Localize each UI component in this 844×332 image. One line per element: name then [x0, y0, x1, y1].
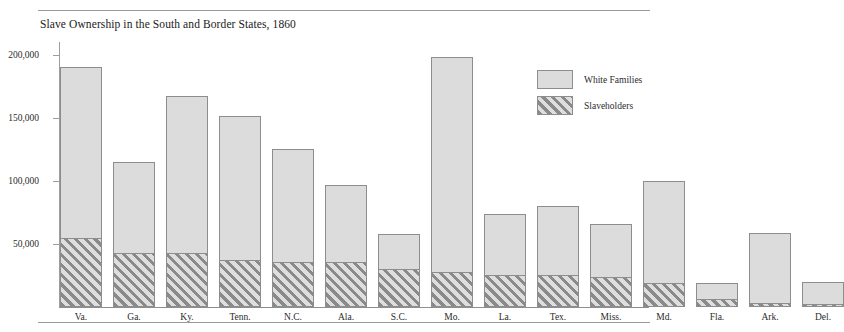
- bar-group: [643, 181, 685, 307]
- header-divider: [38, 10, 650, 11]
- chart-title: Slave Ownership in the South and Border …: [40, 18, 296, 30]
- bar-segment-slaveholders: [166, 253, 208, 307]
- x-axis-tick-label: Ala.: [325, 312, 367, 322]
- y-axis-tick-label: 200,000: [8, 50, 39, 60]
- x-axis-tick-label: Ark.: [749, 312, 791, 322]
- legend-swatch-slaveholders: [537, 96, 573, 115]
- bar-group: [537, 206, 579, 307]
- x-axis-tick-label: Ky.: [166, 312, 208, 322]
- bar-segment-slaveholders: [113, 253, 155, 307]
- bar-group: [325, 185, 367, 307]
- bar-segment-slaveholders: [537, 275, 579, 307]
- bar-group: [696, 283, 738, 307]
- bar-group: [113, 162, 155, 307]
- x-axis-tick-label: Tex.: [537, 312, 579, 322]
- y-axis-tick: [53, 244, 60, 245]
- bar-segment-slaveholders: [272, 262, 314, 307]
- x-axis-tick-label: La.: [484, 312, 526, 322]
- legend-label-white-families: White Families: [584, 75, 642, 85]
- bar-segment-slaveholders: [219, 260, 261, 307]
- x-axis-tick-label: Tenn.: [219, 312, 261, 322]
- legend-item-white-families: White Families: [537, 70, 642, 89]
- x-axis-line: [59, 307, 649, 308]
- y-axis-tick-label: 100,000: [8, 176, 39, 186]
- bar-segment-slaveholders: [643, 283, 685, 307]
- x-axis-tick-label: Fla.: [696, 312, 738, 322]
- bar-group: [378, 234, 420, 307]
- legend-swatch-white-families: [537, 70, 573, 89]
- bar-segment-slaveholders: [484, 275, 526, 307]
- bar-segment-slaveholders: [802, 304, 844, 307]
- legend-label-slaveholders: Slaveholders: [584, 101, 633, 111]
- bar-segment-slaveholders: [325, 262, 367, 307]
- bar-segment-slaveholders: [590, 277, 632, 307]
- x-axis-tick-label: Mo.: [431, 312, 473, 322]
- bar-group: [802, 282, 844, 307]
- legend-item-slaveholders: Slaveholders: [537, 96, 633, 115]
- bar-group: [219, 116, 261, 307]
- bar-group: [590, 224, 632, 307]
- bar-segment-slaveholders: [60, 238, 102, 307]
- footer-divider: [38, 322, 650, 323]
- x-axis-tick-label: Va.: [60, 312, 102, 322]
- bar-group: [484, 214, 526, 307]
- bar-group: [166, 96, 208, 307]
- bar-segment-white-families: [802, 282, 844, 307]
- x-axis-tick-label: Miss.: [590, 312, 632, 322]
- x-axis-tick-label: S.C.: [378, 312, 420, 322]
- x-axis-tick-label: Ga.: [113, 312, 155, 322]
- bar-segment-slaveholders: [749, 303, 791, 307]
- bar-segment-slaveholders: [378, 269, 420, 307]
- bar-segment-slaveholders: [696, 299, 738, 307]
- bar-segment-white-families: [431, 57, 473, 307]
- y-axis-tick: [53, 181, 60, 182]
- bar-group: [431, 57, 473, 307]
- x-axis-tick-label: Del.: [802, 312, 844, 322]
- bar-group: [60, 67, 102, 307]
- x-axis-tick-label: Md.: [643, 312, 685, 322]
- y-axis-tick: [53, 118, 60, 119]
- y-axis-tick-label: 150,000: [8, 113, 39, 123]
- bar-segment-white-families: [749, 233, 791, 307]
- bar-segment-slaveholders: [431, 272, 473, 307]
- x-axis-tick-label: N.C.: [272, 312, 314, 322]
- y-axis-tick: [53, 55, 60, 56]
- bar-group: [749, 233, 791, 307]
- bar-group: [272, 149, 314, 307]
- y-axis-tick-label: 50,000: [13, 239, 39, 249]
